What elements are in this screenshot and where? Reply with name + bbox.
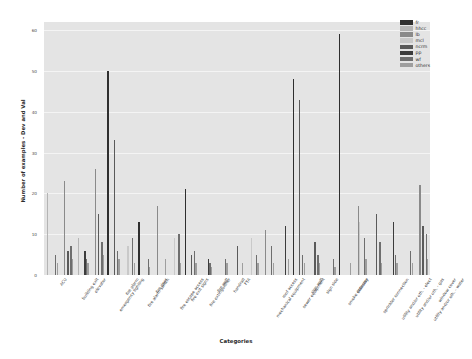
- bar: [87, 263, 88, 275]
- legend-item[interactable]: lb: [400, 32, 462, 37]
- bar: [427, 259, 428, 275]
- bar: [78, 238, 79, 275]
- bar: [226, 263, 227, 275]
- legend-label: pp: [416, 50, 422, 55]
- bar-group: [137, 22, 152, 275]
- y-tick-label: 20: [32, 191, 37, 196]
- bar: [157, 206, 158, 275]
- bar: [174, 238, 175, 275]
- bar-group: [322, 22, 337, 275]
- legend-label: ncrm: [416, 44, 428, 49]
- bar-group: [353, 22, 368, 275]
- bar: [195, 263, 196, 275]
- bar: [381, 263, 382, 275]
- x-tick-label: handrail: [232, 277, 246, 294]
- x-tick-label: ACU: [58, 277, 67, 287]
- bar-group: [306, 22, 321, 275]
- legend-item[interactable]: pp: [400, 50, 462, 55]
- bar: [319, 263, 320, 275]
- legend-item[interactable]: ncrm: [400, 44, 462, 49]
- bar: [412, 263, 413, 275]
- bar-group: [245, 22, 260, 275]
- bar: [98, 214, 99, 275]
- bar: [304, 263, 305, 275]
- bar: [165, 259, 166, 275]
- legend-item[interactable]: others: [400, 63, 462, 68]
- bar-group: [291, 22, 306, 275]
- bar-group: [368, 22, 383, 275]
- legend-swatch: [400, 20, 413, 25]
- bar-group: [90, 22, 105, 275]
- y-tick-label: 30: [32, 150, 37, 155]
- bar: [103, 255, 104, 275]
- bar: [107, 71, 108, 275]
- bar: [134, 263, 135, 275]
- bar: [422, 226, 423, 275]
- bar: [72, 259, 73, 275]
- y-tick-label: 40: [32, 109, 37, 114]
- bar-group: [229, 22, 244, 275]
- bar: [64, 181, 65, 275]
- bar-group: [384, 22, 399, 275]
- x-tick-label: sign side: [325, 277, 340, 295]
- bar: [180, 263, 181, 275]
- legend-item[interactable]: wf: [400, 57, 462, 62]
- x-axis-label: Categories: [0, 338, 472, 344]
- bar: [185, 189, 186, 275]
- bar: [251, 238, 252, 275]
- bar: [350, 263, 351, 275]
- bar: [376, 214, 377, 275]
- legend-swatch: [400, 45, 413, 50]
- legend-label: others: [416, 63, 431, 68]
- bar: [191, 255, 192, 275]
- legend-label: lb: [416, 32, 420, 37]
- bar: [285, 226, 286, 275]
- bar-group: [106, 22, 121, 275]
- y-tick-label: 60: [32, 28, 37, 33]
- legend-item[interactable]: fr: [400, 20, 462, 25]
- legend-label: hhcc: [416, 26, 427, 31]
- bar: [288, 259, 289, 275]
- bar: [67, 251, 68, 275]
- bar: [293, 79, 294, 275]
- legend-swatch: [400, 38, 413, 43]
- bar: [95, 169, 96, 275]
- bar-group: [198, 22, 213, 275]
- bar: [257, 263, 258, 275]
- bar: [242, 263, 243, 275]
- bar: [211, 267, 212, 275]
- legend-swatch: [400, 63, 413, 68]
- bar-group: [337, 22, 352, 275]
- legend-swatch: [400, 26, 413, 31]
- y-tick-label: 10: [32, 232, 37, 237]
- plot-area: [44, 22, 430, 275]
- bar-group: [152, 22, 167, 275]
- y-axis-ticks: 0102030405060: [0, 22, 42, 275]
- bar: [334, 267, 335, 275]
- bar-group: [276, 22, 291, 275]
- legend-swatch: [400, 57, 413, 62]
- bar: [299, 100, 300, 275]
- bar: [237, 246, 238, 275]
- legend-label: mcl: [416, 38, 424, 43]
- legend: frhhcclbmclncrmppwfothers: [400, 20, 462, 68]
- bar: [149, 267, 150, 275]
- legend-label: fr: [416, 20, 420, 25]
- bar: [57, 263, 58, 275]
- bar-group: [260, 22, 275, 275]
- legend-label: wf: [416, 57, 421, 62]
- legend-item[interactable]: mcl: [400, 38, 462, 43]
- legend-swatch: [400, 51, 413, 56]
- x-axis-ticks: ACUbuilding exitelevatoremergency lighti…: [44, 275, 430, 337]
- bar-group: [214, 22, 229, 275]
- bar-group: [75, 22, 90, 275]
- bar-group: [59, 22, 74, 275]
- bar: [339, 34, 340, 275]
- bar: [359, 222, 360, 275]
- y-tick-label: 0: [34, 273, 37, 278]
- bar: [47, 193, 48, 275]
- bar: [396, 263, 397, 275]
- bar: [365, 259, 366, 275]
- bar: [114, 140, 115, 275]
- legend-item[interactable]: hhcc: [400, 26, 462, 31]
